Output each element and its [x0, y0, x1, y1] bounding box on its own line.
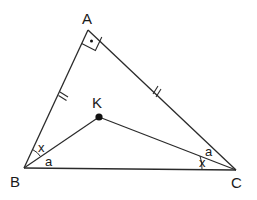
right-angle-marker: [82, 37, 102, 51]
triangle-diagram: A B C K x a a x: [0, 0, 257, 200]
angle-label-b-a: a: [45, 154, 53, 169]
angle-label-c-x: x: [199, 155, 206, 170]
vertex-label-b: B: [10, 173, 20, 190]
right-angle-dot: [90, 40, 93, 43]
equal-tick-ab: [59, 92, 69, 101]
equal-tick-ac: [153, 86, 161, 97]
vertex-label-c: C: [231, 174, 242, 191]
side-ac: [88, 30, 236, 170]
angle-label-b-x: x: [38, 140, 45, 155]
segment-ck: [99, 117, 236, 170]
angle-label-c-a: a: [205, 144, 213, 159]
point-label-k: K: [92, 94, 102, 111]
point-k-dot: [95, 113, 102, 120]
side-ab: [24, 30, 88, 168]
vertex-label-a: A: [82, 10, 92, 27]
